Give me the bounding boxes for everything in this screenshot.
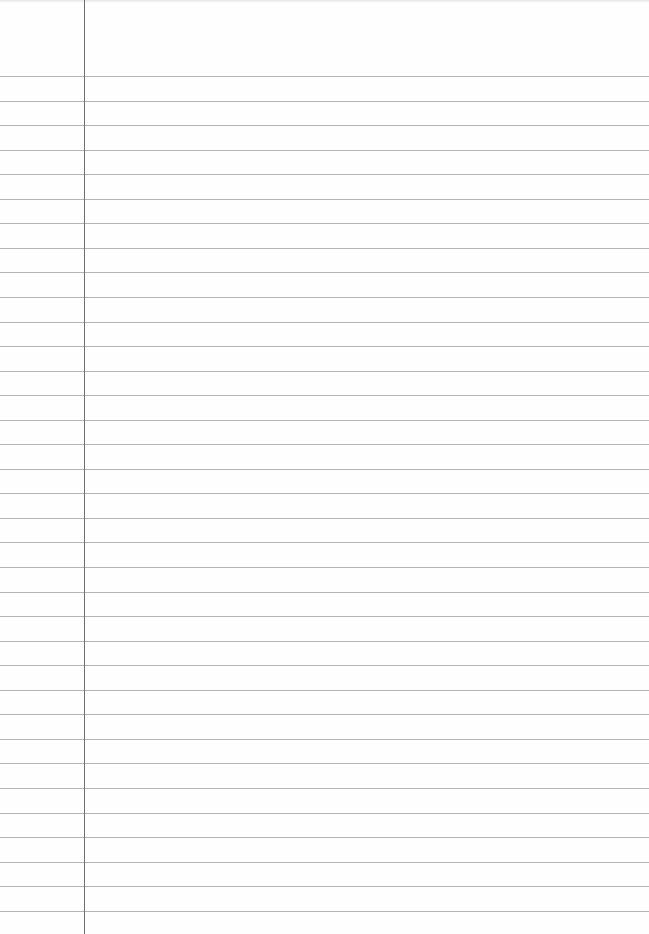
ruled-line	[0, 739, 649, 740]
ruled-line	[0, 297, 649, 298]
ruled-line	[0, 420, 649, 421]
ruled-line	[0, 763, 649, 764]
top-edge-shadow	[0, 0, 649, 3]
ruled-line	[0, 223, 649, 224]
ruled-line	[0, 150, 649, 151]
ruled-line	[0, 690, 649, 691]
ruled-line	[0, 346, 649, 347]
ruled-line	[0, 174, 649, 175]
ruled-line	[0, 493, 649, 494]
ruled-line	[0, 886, 649, 887]
ruled-line	[0, 837, 649, 838]
ruled-line	[0, 444, 649, 445]
ruled-line	[0, 125, 649, 126]
ruled-line	[0, 592, 649, 593]
ruled-line	[0, 469, 649, 470]
ruled-line	[0, 862, 649, 863]
ruled-line	[0, 788, 649, 789]
ruled-line	[0, 272, 649, 273]
lined-paper	[0, 0, 649, 934]
ruled-line	[0, 567, 649, 568]
ruled-line	[0, 248, 649, 249]
margin-line	[84, 0, 85, 934]
ruled-line	[0, 616, 649, 617]
ruled-line	[0, 813, 649, 814]
ruled-line	[0, 101, 649, 102]
ruled-line	[0, 665, 649, 666]
ruled-line	[0, 542, 649, 543]
ruled-line	[0, 911, 649, 912]
ruled-line	[0, 371, 649, 372]
ruled-line	[0, 641, 649, 642]
ruled-line	[0, 199, 649, 200]
ruled-line	[0, 76, 649, 77]
ruled-line	[0, 322, 649, 323]
ruled-line	[0, 395, 649, 396]
ruled-line	[0, 518, 649, 519]
ruled-line	[0, 714, 649, 715]
